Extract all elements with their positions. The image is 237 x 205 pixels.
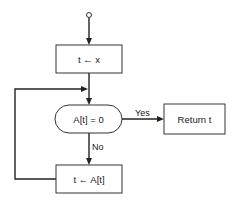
node-return: Return t	[164, 104, 225, 134]
node-test-label: A[t] = 0	[73, 114, 103, 125]
node-init: t ← x	[56, 45, 122, 73]
node-step-label: t ← A[t]	[73, 174, 104, 185]
node-init-label: t ← x	[78, 54, 100, 65]
edge-test-to-return: Yes	[122, 108, 164, 122]
arrowhead-icon	[86, 98, 92, 105]
start-node	[87, 13, 92, 18]
flowchart: t ← x A[t] = 0 Yes Return t No t ← A[t]	[0, 0, 237, 205]
edge-start-to-init	[86, 18, 92, 45]
node-return-label: Return t	[178, 114, 212, 125]
arrowhead-icon	[86, 38, 92, 45]
edge-label-yes: Yes	[135, 108, 150, 118]
edge-test-to-step: No	[86, 133, 104, 165]
arrowhead-icon	[86, 158, 92, 165]
arrowhead-icon	[81, 86, 88, 92]
node-step: t ← A[t]	[56, 165, 122, 193]
node-test: A[t] = 0	[55, 105, 122, 133]
arrowhead-icon	[157, 116, 164, 122]
edge-label-no: No	[92, 142, 104, 152]
